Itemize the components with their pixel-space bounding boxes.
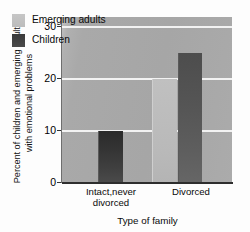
legend-item-emerging-adults: Emerging adults — [12, 13, 140, 27]
x-tick-label-divorced: Divorced — [152, 186, 230, 197]
x-tick-label-line-2: divorced — [66, 197, 156, 208]
x-tick-label-intact-never-divorced: Intact,never divorced — [66, 186, 156, 209]
bar-emerging-adults-divorced — [152, 79, 177, 183]
light-gray-swatch-icon — [12, 14, 25, 27]
bar-chart-figure: Percent of children and emerging adults … — [0, 0, 250, 232]
x-tick-label-line-1: Intact,never — [66, 186, 156, 197]
y-tick-label-10: 10 — [30, 125, 56, 136]
x-tick-label-line-1: Divorced — [152, 186, 230, 197]
legend-label-children: Children — [32, 34, 70, 46]
gridline-10 — [62, 130, 232, 132]
bar-children-intact-never-divorced — [98, 131, 123, 183]
legend-label-emerging-adults: Emerging adults — [32, 14, 106, 26]
x-axis-title: Type of family — [62, 215, 233, 226]
legend-item-children: Children — [12, 33, 140, 47]
gridline-20 — [62, 78, 232, 80]
chart-legend: Emerging adults Children — [12, 13, 140, 53]
dark-gray-swatch-icon — [12, 34, 25, 47]
y-tick-label-20: 20 — [30, 73, 56, 84]
bar-children-divorced — [178, 53, 202, 183]
x-axis-line — [62, 182, 233, 184]
y-tick-label-0: 0 — [30, 177, 56, 188]
